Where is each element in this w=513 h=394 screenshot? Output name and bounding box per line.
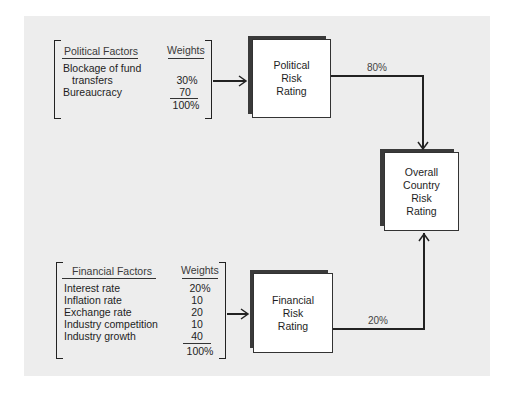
political-box-line-3: Rating: [273, 85, 309, 98]
arrow-head-icon: [240, 308, 250, 320]
financial-bracket-left: [56, 262, 63, 359]
overall-box-face: Overall Country Risk Rating: [384, 152, 459, 231]
arrow-down-icon: [417, 141, 429, 151]
financial-weights-underline: [182, 278, 218, 279]
arrow-up-icon: [418, 232, 430, 242]
arrow-head-icon: [238, 75, 248, 87]
financial-weight-competition: 10: [180, 318, 214, 330]
overall-box-line-1: Overall: [403, 166, 440, 179]
political-box-line-2: Risk: [273, 72, 309, 85]
financial-weight-interest: 20%: [183, 282, 217, 294]
financial-factor-competition: Industry competition: [64, 318, 158, 330]
financial-factor-exchange: Exchange rate: [64, 306, 132, 318]
political-to-overall-line-h: [331, 75, 423, 77]
financial-box-line-1: Financial: [272, 294, 314, 307]
political-weight-blockage: 30%: [170, 74, 204, 86]
financial-weight-exchange: 20: [180, 306, 214, 318]
political-box-face: Political Risk Rating: [252, 39, 331, 118]
political-weights-underline: [168, 58, 204, 59]
financial-to-overall-line-v: [423, 233, 425, 329]
political-box-line-1: Political: [273, 59, 309, 72]
financial-weights-header: Weights: [181, 264, 219, 276]
financial-bracket-right: [219, 262, 226, 359]
political-bracket-left: [54, 40, 61, 119]
financial-factors-header: Financial Factors: [72, 265, 152, 277]
financial-sum-line: [183, 343, 211, 344]
overall-box-line-4: Rating: [403, 205, 440, 218]
political-weights-header: Weights: [167, 44, 205, 56]
financial-factor-growth: Industry growth: [64, 330, 136, 342]
political-to-overall-line-v: [422, 75, 424, 148]
financial-factor-inflation: Inflation rate: [64, 294, 122, 306]
financial-weight-growth: 40: [180, 330, 214, 342]
overall-box-line-3: Risk: [403, 192, 440, 205]
political-weight-total: 100%: [168, 99, 204, 111]
political-factor-bureaucracy: Bureaucracy: [63, 86, 122, 98]
political-factor-blockage: Blockage of fund: [63, 62, 141, 74]
financial-weight-label: 20%: [368, 315, 388, 327]
financial-weight-inflation: 10: [180, 294, 214, 306]
political-bracket-right: [205, 40, 212, 119]
financial-factor-interest: Interest rate: [64, 282, 120, 294]
political-weight-bureaucracy: 70: [168, 86, 202, 98]
overall-box-line-2: Country: [403, 179, 440, 192]
political-factor-blockage-cont: transfers: [72, 74, 113, 86]
financial-weight-total: 100%: [182, 345, 218, 357]
political-factors-header: Political Factors: [64, 45, 138, 57]
financial-factors-underline: [62, 278, 156, 279]
political-factors-underline: [62, 58, 138, 59]
financial-to-overall-line-h: [333, 328, 425, 330]
financial-box-line-2: Risk: [272, 307, 314, 320]
financial-box-face: Financial Risk Rating: [253, 273, 333, 353]
political-weight-label: 80%: [367, 62, 387, 74]
financial-box-line-3: Rating: [272, 320, 314, 333]
